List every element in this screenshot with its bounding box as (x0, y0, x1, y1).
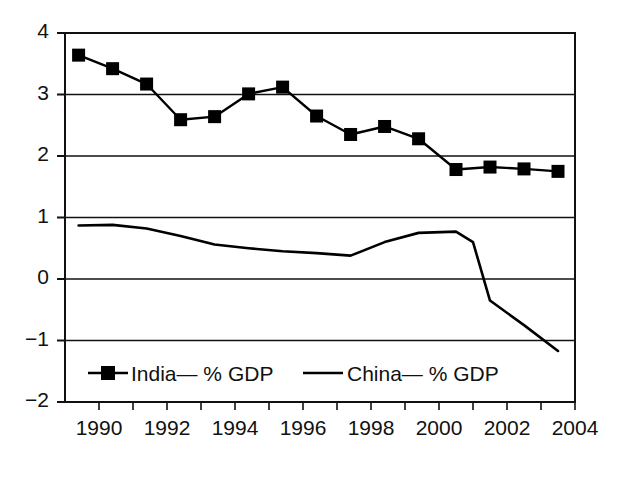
data-point-marker (484, 161, 497, 174)
data-point-marker (518, 162, 531, 175)
x-tick-label: 1990 (64, 416, 134, 440)
y-axis-ticks (57, 33, 65, 402)
data-point-marker (378, 120, 391, 133)
data-point-marker (412, 132, 425, 145)
data-point-marker (106, 62, 119, 75)
x-tick-label: 1996 (268, 416, 338, 440)
legend-item-india-label: India— % GDP (131, 362, 273, 386)
y-tick-label: 2 (9, 142, 49, 166)
x-tick-label: 2000 (404, 416, 474, 440)
data-point-marker (344, 128, 357, 141)
y-tick-label: 0 (9, 265, 49, 289)
data-point-marker (276, 81, 289, 94)
x-tick-label: 1992 (132, 416, 202, 440)
series-line-china (79, 225, 558, 351)
data-point-marker (552, 165, 565, 178)
data-point-marker (450, 163, 463, 176)
x-tick-label: 1994 (200, 416, 270, 440)
y-tick-label: 3 (9, 81, 49, 105)
gridlines (65, 95, 575, 341)
y-tick-label: −1 (9, 327, 49, 351)
data-point-marker (72, 49, 85, 62)
legend-marker-india-square (101, 366, 115, 380)
data-point-marker (208, 110, 221, 123)
y-tick-label: −2 (9, 388, 49, 412)
x-tick-label: 2002 (472, 416, 542, 440)
chart-plot-area (0, 0, 622, 477)
y-tick-label: 1 (9, 204, 49, 228)
data-point-marker (242, 87, 255, 100)
x-tick-label: 2004 (540, 416, 610, 440)
data-point-marker (140, 78, 153, 91)
chart-figure: 43210−1−2 199019921994199619982000200220… (0, 0, 622, 477)
y-tick-label: 4 (9, 19, 49, 43)
legend-item-china-label: China— % GDP (347, 362, 499, 386)
data-point-marker (174, 113, 187, 126)
data-point-marker (310, 110, 323, 123)
x-axis-ticks (99, 402, 575, 410)
x-tick-label: 1998 (336, 416, 406, 440)
